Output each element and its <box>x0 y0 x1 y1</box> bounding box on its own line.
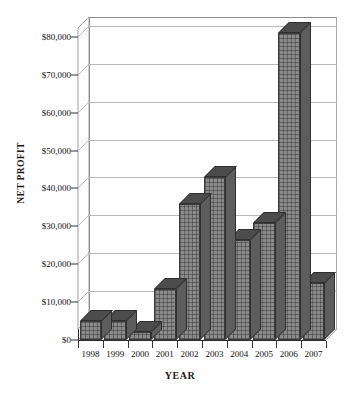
x-tick-mark <box>103 341 104 348</box>
bar-side-face <box>300 22 311 340</box>
y-tick-mark <box>71 150 78 151</box>
gridline-connector <box>78 26 90 38</box>
gridline-connector <box>78 253 90 265</box>
x-tick-mark <box>301 341 302 348</box>
y-tick-label: $50,000 <box>42 146 71 156</box>
bar-side-face <box>200 193 211 340</box>
y-tick-label: $80,000 <box>42 32 71 42</box>
plot-area: $0$10,000$20,000$30,000$40,000$50,000$60… <box>0 0 360 394</box>
y-tick-mark <box>71 74 78 75</box>
y-tick-mark <box>71 340 78 341</box>
bar-side-face <box>324 272 335 340</box>
y-tick-label: $40,000 <box>42 183 71 193</box>
x-tick-mark <box>78 341 79 348</box>
y-tick-mark <box>71 188 78 189</box>
y-tick-label: $10,000 <box>42 297 71 307</box>
y-tick-mark <box>71 264 78 265</box>
bar-side-face <box>275 212 286 340</box>
y-tick-mark <box>71 112 78 113</box>
x-axis-title: YEAR <box>0 370 360 381</box>
x-tick-mark <box>326 341 327 348</box>
gridline-connector <box>78 291 90 303</box>
y-tick-label: $60,000 <box>42 108 71 118</box>
y-tick-mark <box>71 226 78 227</box>
bar-1998 <box>80 321 102 340</box>
bar-front-face <box>80 321 102 340</box>
y-tick-label: $30,000 <box>42 221 71 231</box>
gridline-connector <box>78 177 90 189</box>
gridline-connector <box>78 140 90 152</box>
x-tick-mark <box>252 341 253 348</box>
y-tick-mark <box>71 36 78 37</box>
y-tick-label: $0 <box>62 335 71 345</box>
x-tick-mark <box>227 341 228 348</box>
x-tick-mark <box>276 341 277 348</box>
gridline-connector <box>78 215 90 227</box>
x-tick-mark <box>202 341 203 348</box>
y-tick-label: $20,000 <box>42 259 71 269</box>
x-tick-mark <box>128 341 129 348</box>
x-tick-mark <box>177 341 178 348</box>
gridline-connector <box>78 102 90 114</box>
bar-side-face <box>225 166 236 340</box>
x-tick-label: 2007 <box>297 349 331 359</box>
x-tick-mark <box>152 341 153 348</box>
y-tick-mark <box>71 302 78 303</box>
bar-side-face <box>250 229 261 340</box>
net-profit-bar-chart: NET PROFIT $0$10,000$20,000$30,000$40,00… <box>0 0 360 394</box>
gridline-connector <box>78 64 90 76</box>
y-tick-label: $70,000 <box>42 70 71 80</box>
